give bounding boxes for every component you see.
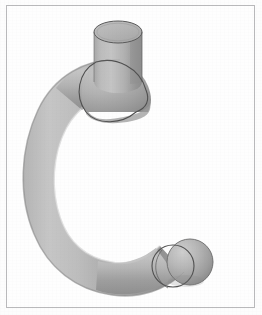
vertical-cylinder-stub [94,21,142,93]
cylinder-top-face [94,21,142,43]
figure-page: Grayscale shaded 3D rendering of a C-sha… [0,0,262,315]
curved-pipe-illustration: Grayscale shaded 3D rendering of a C-sha… [0,0,262,315]
